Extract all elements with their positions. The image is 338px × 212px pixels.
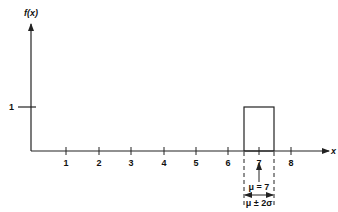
x-tick-label: 8 <box>288 158 293 168</box>
mean-label: μ = 7 <box>249 182 270 192</box>
range-label: μ ± 2σ <box>246 198 273 208</box>
x-axis-label: x <box>330 146 337 156</box>
uniform-distribution-diagram: f(x) 1 x 1 2 3 4 5 6 7 8 <box>0 0 338 212</box>
x-tick-label: 2 <box>96 158 101 168</box>
y-tick-label: 1 <box>9 102 14 112</box>
x-tick-label: 6 <box>225 158 230 168</box>
uniform-density-rectangle <box>244 107 274 151</box>
y-axis: f(x) 1 <box>9 8 38 151</box>
y-axis-label: f(x) <box>24 8 38 18</box>
x-tick-label: 4 <box>161 158 166 168</box>
x-axis: x 1 2 3 4 5 6 7 8 <box>31 146 337 168</box>
x-tick-label: 3 <box>128 158 133 168</box>
x-tick-label: 1 <box>63 158 68 168</box>
x-tick-label: 5 <box>193 158 198 168</box>
